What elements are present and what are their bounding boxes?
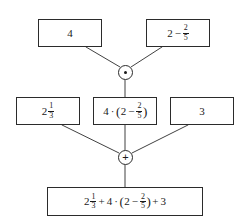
- number-token: 3: [199, 106, 206, 117]
- fraction-numerator: 2: [140, 193, 146, 201]
- fraction-denominator: 3: [90, 201, 96, 210]
- node-mid-left-expression: 213: [41, 102, 55, 119]
- node-mid-center-product: 4·(2−25): [93, 97, 157, 125]
- node-bottom-expression: 213+4·(2−25)+3: [83, 193, 166, 210]
- edge-top-left-to-multiply: [86, 47, 120, 67]
- expression-tree-diagram: 4 2−25 213 4·(2−25) 3 + 213+4·(2−25)+3: [0, 0, 248, 223]
- number-token: 4: [67, 28, 74, 39]
- node-mid-right-operand: 3: [170, 97, 234, 125]
- operator-symbol: −: [130, 196, 139, 207]
- edge-mid-right-to-add: [132, 125, 188, 153]
- operator-symbol: −: [127, 106, 136, 117]
- number-token: 2: [41, 106, 48, 117]
- fraction: 25: [136, 102, 142, 119]
- fraction-numerator: 1: [90, 193, 96, 201]
- fraction: 25: [140, 193, 146, 210]
- fraction-numerator: 2: [183, 24, 189, 32]
- node-top-right-operand: 2−25: [146, 19, 210, 47]
- number-token: 2: [83, 196, 90, 207]
- fraction-numerator: 2: [136, 102, 142, 110]
- node-mid-center-expression: 4·(2−25): [103, 102, 148, 119]
- node-top-left-expression: 4: [67, 28, 74, 39]
- operator-symbol: +: [97, 196, 106, 207]
- fraction-denominator: 3: [48, 111, 54, 120]
- node-top-left-operand: 4: [38, 19, 102, 47]
- fraction-denominator: 5: [140, 201, 146, 210]
- operator-symbol: ·: [109, 106, 116, 117]
- node-bottom-result: 213+4·(2−25)+3: [47, 187, 203, 216]
- number-token: 3: [160, 196, 167, 207]
- addition-node: +: [118, 150, 133, 165]
- multiply-dot-icon: [124, 71, 127, 74]
- node-mid-right-expression: 3: [199, 106, 206, 117]
- plus-icon: +: [122, 152, 128, 163]
- fraction-denominator: 5: [136, 111, 142, 120]
- edge-top-right-to-multiply: [131, 47, 162, 67]
- operator-symbol: ·: [113, 196, 120, 207]
- fraction: 13: [90, 193, 96, 210]
- parenthesis: ): [143, 105, 147, 118]
- node-mid-left-operand: 213: [16, 97, 80, 125]
- node-top-right-expression: 2−25: [167, 24, 190, 41]
- fraction: 13: [48, 102, 54, 119]
- edge-mid-left-to-add: [62, 125, 119, 153]
- fraction-denominator: 5: [183, 33, 189, 42]
- multiplication-node: [118, 65, 133, 80]
- fraction-numerator: 1: [48, 102, 54, 110]
- fraction: 25: [183, 24, 189, 41]
- operator-symbol: +: [151, 196, 160, 207]
- operator-symbol: −: [173, 28, 182, 39]
